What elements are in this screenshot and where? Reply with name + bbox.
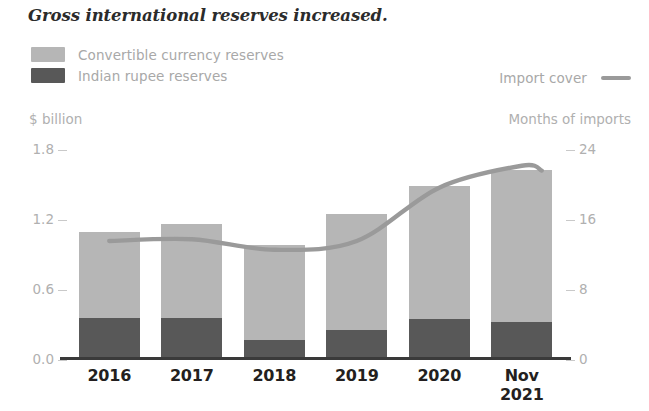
legend-import-cover: Import cover [499,70,631,86]
y-tick-label: 1.2 [33,213,54,227]
y-tick-label: 0.6 [33,283,54,297]
y2-tick-label: 24 [579,143,596,157]
tick-mark [58,220,67,222]
bar-segment-indian-rupee-reserves [326,330,387,360]
legend-item-convertible-currency-reserves: Convertible currency reserves [31,44,284,65]
legend-item-label: Indian rupee reserves [78,68,227,84]
bar-segment-convertible-currency-reserves [79,232,140,318]
bar-segment-convertible-currency-reserves [326,214,387,330]
x-axis-label-line: 2016 [68,366,151,385]
legend-bars: Convertible currency reserves Indian rup… [31,44,284,86]
bar-segment-indian-rupee-reserves [161,318,222,360]
bar-stack [326,214,387,360]
legend-item-label: Import cover [499,70,587,86]
plot-area: 1.81.20.60.0 241680 [68,150,563,360]
chart-title: Gross international reserves increased. [28,6,388,25]
chart-container: Gross international reserves increased. … [0,0,649,411]
bar-segment-convertible-currency-reserves [491,170,552,322]
bar-segment-indian-rupee-reserves [491,322,552,361]
bar-stack [491,170,552,360]
x-axis-label: 2017 [151,366,234,385]
legend-item-indian-rupee-reserves: Indian rupee reserves [31,65,284,86]
bar-stack [409,186,470,360]
y-tick-label: 1.8 [33,143,54,157]
x-axis-label: Nov2021 [481,366,564,404]
x-axis-label-line: 2018 [233,366,316,385]
left-axis-caption: $ billion [29,111,82,127]
bar-stack [79,232,140,360]
bar-segment-indian-rupee-reserves [79,318,140,360]
tick-mark [566,150,575,152]
bar-segment-convertible-currency-reserves [161,224,222,319]
x-axis-label-line: 2021 [481,385,564,404]
tick-mark [58,290,67,292]
x-axis-label: 2016 [68,366,151,385]
x-axis-label-line: 2020 [398,366,481,385]
x-axis-label-line: 2019 [316,366,399,385]
x-axis-label: 2019 [316,366,399,385]
tick-mark [566,220,575,222]
y2-tick-label: 16 [579,213,596,227]
bar-series-layer [68,150,563,360]
bar-stack [161,224,222,361]
tick-mark [58,150,67,152]
x-axis-label: 2018 [233,366,316,385]
axis-baseline [60,357,571,360]
legend-swatch-icon [31,47,65,62]
legend-line-icon [601,76,631,80]
x-axis-label-line: Nov [481,366,564,385]
bar-stack [244,245,305,361]
x-axis-labels: 20162017201820192020Nov2021 [68,366,563,411]
x-axis-label: 2020 [398,366,481,385]
right-axis-caption: Months of imports [508,111,631,127]
bar-segment-convertible-currency-reserves [409,186,470,319]
y2-tick-label: 8 [579,283,588,297]
bar-segment-indian-rupee-reserves [409,319,470,360]
y-tick-label: 0.0 [33,353,54,367]
legend-swatch-icon [31,68,65,83]
legend-item-label: Convertible currency reserves [78,47,284,63]
bar-segment-convertible-currency-reserves [244,245,305,341]
tick-mark [566,290,575,292]
y2-tick-label: 0 [579,353,588,367]
x-axis-label-line: 2017 [151,366,234,385]
